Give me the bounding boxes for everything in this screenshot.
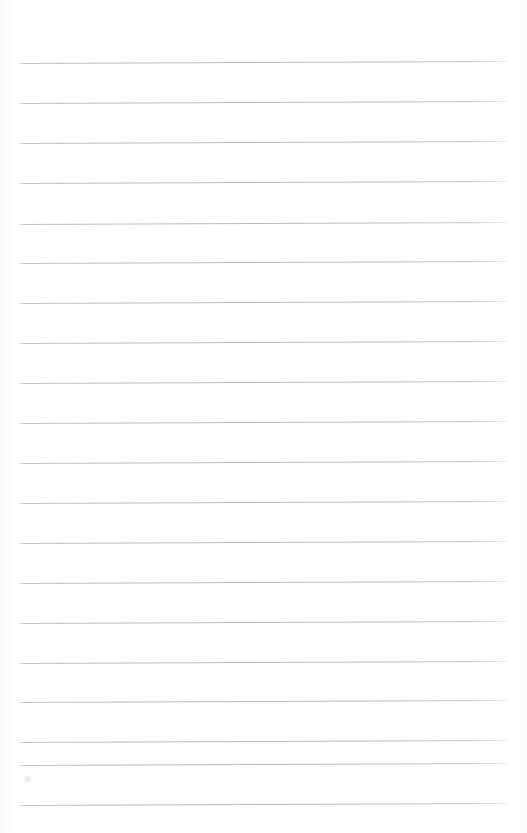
- ruled-line: [19, 581, 507, 584]
- lined-paper-page: [0, 0, 527, 833]
- ruled-line: [19, 222, 507, 225]
- ruled-line: [19, 261, 507, 264]
- ruled-line: [19, 461, 507, 464]
- ruled-line: [19, 61, 507, 64]
- ruled-line: [19, 621, 507, 624]
- ruled-line: [19, 700, 507, 703]
- ruled-line: [19, 101, 507, 104]
- ruled-line: [19, 341, 507, 344]
- ruled-line: [19, 141, 507, 144]
- ruled-lines-layer: [0, 0, 527, 833]
- ruled-line: [19, 501, 507, 504]
- ruled-line: [19, 740, 507, 743]
- ruled-line: [19, 421, 507, 424]
- ruled-line: [19, 661, 507, 664]
- ruled-line: [19, 181, 507, 184]
- ruled-line: [19, 803, 507, 806]
- ruled-line: [19, 763, 507, 766]
- ruled-line: [19, 301, 507, 304]
- ruled-line: [19, 381, 507, 384]
- scan-smudge-artifact: [23, 776, 32, 783]
- ruled-line: [19, 541, 507, 544]
